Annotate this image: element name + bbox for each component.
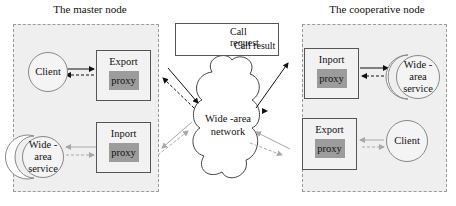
coop-inport-proxy-title: Inport <box>305 54 358 65</box>
master-wide-area-service: Wide - area service <box>22 136 64 178</box>
master-inport-proxy-title: Inport <box>97 128 150 139</box>
master-export-proxy-title: Export <box>97 56 150 67</box>
coop-export-proxy-title: Export <box>303 124 356 135</box>
legend-item-call-result: Call result <box>176 40 278 54</box>
master-export-proxy-inner: proxy <box>109 71 139 90</box>
coop-export-proxy-inner: proxy <box>315 139 345 158</box>
coop-export-proxy: Export proxy <box>302 118 357 170</box>
wide-area-network-label: Wide -area network <box>196 112 260 138</box>
legend-label-call-result: Call result <box>234 40 275 51</box>
coop-client: Client <box>386 120 428 162</box>
master-wide-area-service-label: Wide - area service <box>28 139 58 175</box>
master-inport-proxy: Inport proxy <box>96 122 151 173</box>
network-label-line1: Wide -area <box>196 112 260 125</box>
legend: Call request Call result <box>175 23 279 56</box>
master-client: Client <box>28 52 68 92</box>
coop-wide-area-service-label: Wide - area service <box>403 59 433 95</box>
coop-inport-proxy-inner: proxy <box>317 69 347 88</box>
coop-client-label: Client <box>394 135 420 147</box>
legend-item-call-request: Call request <box>176 26 278 40</box>
network-label-line2: network <box>196 125 260 138</box>
master-export-proxy: Export proxy <box>96 50 151 101</box>
coop-inport-proxy: Inport proxy <box>304 48 359 99</box>
master-client-label: Client <box>35 66 61 78</box>
master-inport-proxy-inner: proxy <box>109 143 139 162</box>
coop-wide-area-service: Wide - area service <box>396 55 440 99</box>
